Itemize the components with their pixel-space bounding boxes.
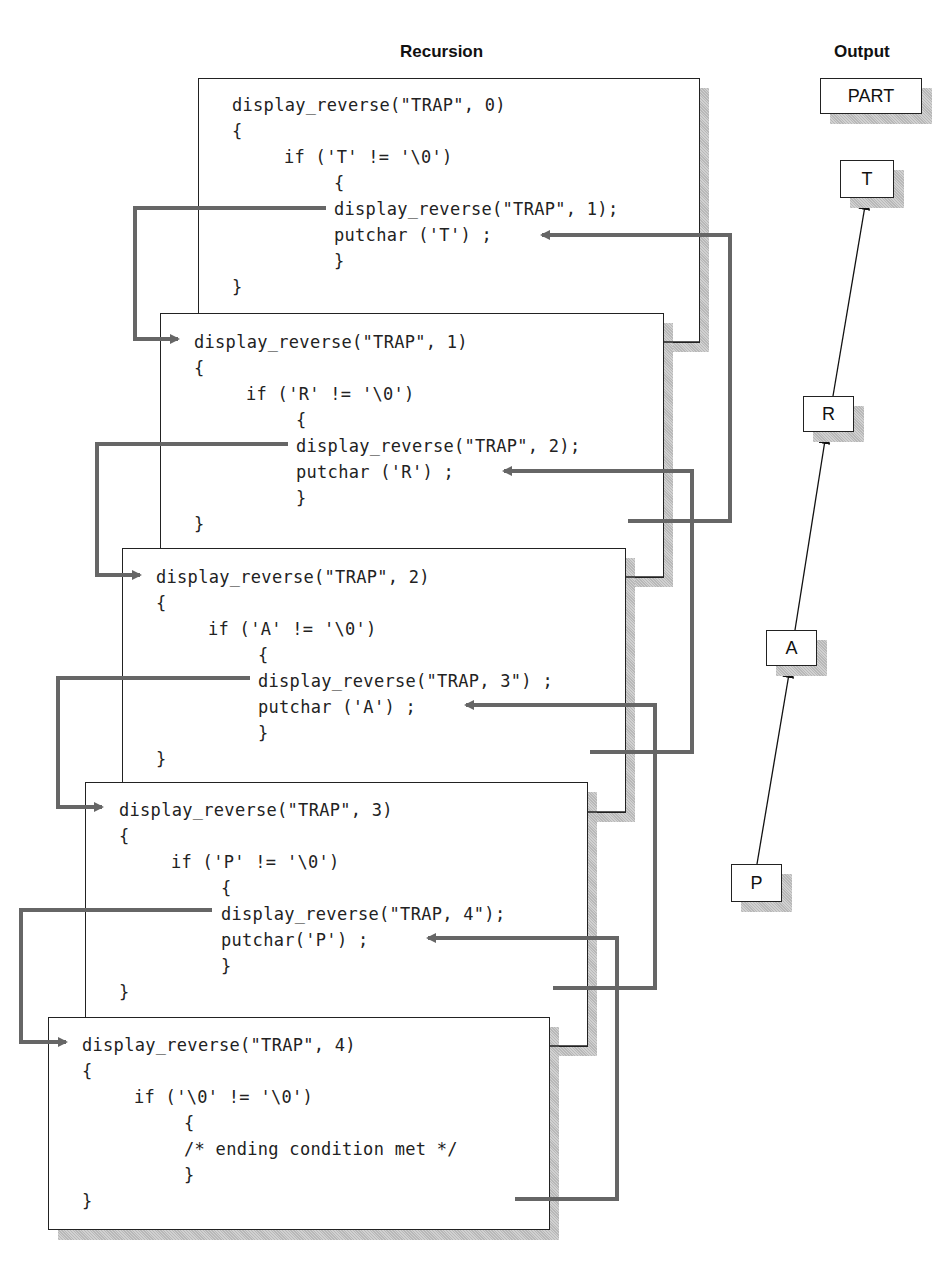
putchar-statement: putchar ('A') ; (258, 694, 416, 720)
putchar-statement: putchar ('R') ; (296, 459, 454, 485)
open-brace: { (232, 118, 243, 144)
stack-frame-2: display_reverse("TRAP", 2) { if ('A' != … (122, 548, 626, 813)
output-char-t: T (840, 160, 894, 198)
function-call-header: display_reverse("TRAP", 0) (232, 92, 506, 118)
ending-comment: /* ending condition met */ (184, 1136, 458, 1162)
open-brace: { (156, 590, 167, 616)
open-brace: { (194, 355, 205, 381)
if-condition: if ('\0' != '\0') (134, 1084, 313, 1110)
close-brace: } (232, 274, 243, 300)
output-arrow-r-to-t (833, 200, 866, 396)
inner-open-brace: { (184, 1110, 195, 1136)
stack-frame-0: display_reverse("TRAP", 0) { if ('T' != … (198, 78, 700, 343)
inner-open-brace: { (334, 170, 345, 196)
close-brace: } (156, 746, 167, 772)
open-brace: { (119, 823, 130, 849)
function-call-header: display_reverse("TRAP", 1) (194, 329, 468, 355)
output-char-r: R (803, 396, 854, 432)
recursive-call: display_reverse("TRAP, 4"); (221, 901, 505, 927)
recursive-call: display_reverse("TRAP", 1); (334, 196, 618, 222)
close-brace: } (82, 1188, 93, 1214)
function-call-header: display_reverse("TRAP", 2) (156, 564, 430, 590)
stack-frame-3: display_reverse("TRAP", 3) { if ('P' != … (85, 782, 588, 1047)
inner-close-brace: } (221, 953, 232, 979)
output-heading: Output (834, 42, 890, 62)
output-arrow-p-to-a (757, 668, 790, 864)
recursion-heading: Recursion (400, 42, 483, 62)
if-condition: if ('R' != '\0') (246, 381, 415, 407)
inner-close-brace: } (258, 720, 269, 746)
inner-open-brace: { (258, 642, 269, 668)
function-call-header: display_reverse("TRAP", 3) (119, 797, 393, 823)
if-condition: if ('P' != '\0') (171, 849, 340, 875)
function-call-header: display_reverse("TRAP", 4) (82, 1032, 356, 1058)
recursive-call: display_reverse("TRAP, 3") ; (258, 668, 553, 694)
stack-frame-4: display_reverse("TRAP", 4) { if ('\0' !=… (48, 1017, 550, 1230)
if-condition: if ('T' != '\0') (284, 144, 453, 170)
inner-open-brace: { (221, 875, 232, 901)
inner-close-brace: } (184, 1162, 195, 1188)
recursive-call: display_reverse("TRAP", 2); (296, 433, 580, 459)
putchar-statement: putchar('P') ; (221, 927, 369, 953)
if-condition: if ('A' != '\0') (208, 616, 377, 642)
output-char-a: A (766, 630, 817, 666)
inner-open-brace: { (296, 407, 307, 433)
inner-close-brace: } (296, 485, 307, 511)
putchar-statement: putchar ('T') ; (334, 222, 492, 248)
output-result-box: PART (820, 78, 922, 114)
stack-frame-1: display_reverse("TRAP", 1) { if ('R' != … (160, 313, 664, 578)
close-brace: } (194, 511, 205, 537)
output-arrow-a-to-r (795, 434, 826, 630)
inner-close-brace: } (334, 248, 345, 274)
close-brace: } (119, 979, 130, 1005)
output-char-p: P (731, 864, 782, 902)
open-brace: { (82, 1058, 93, 1084)
